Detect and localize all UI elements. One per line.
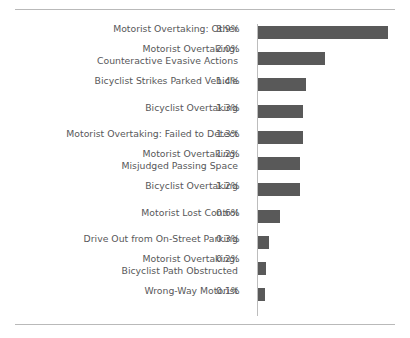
bar [258,105,303,118]
bar [258,131,303,144]
value-label: 1.3% [216,128,249,140]
value-label: 1.3% [216,102,249,114]
value-label: 0.1% [216,285,249,297]
category-label: Motorist Lost Control [20,207,238,219]
category-label: Motorist Overtaking: Bicyclist Path Obst… [20,253,238,276]
category-label: Motorist Overtaking: Misjudged Passing S… [20,148,238,171]
bar [258,262,266,275]
value-label: 0.6% [216,207,249,219]
category-label: Bicyclist Strikes Parked Vehicle [20,75,238,87]
category-label: Wrong-Way Motorist [20,285,238,297]
chart-container: Motorist Overtaking: Other3.9%Motorist O… [0,0,410,338]
bar [258,157,300,170]
bar-row: Wrong-Way Motorist0.1% [0,22,410,48]
category-label: Motorist Overtaking: Failed to Detect [20,128,238,140]
value-label: 1.2% [216,148,249,160]
category-label: Bicyclist Overtaking [20,180,238,192]
bar [258,52,325,65]
bar [258,236,269,249]
bar [258,288,265,301]
value-label: 1.4% [216,75,249,87]
category-label: Drive Out from On-Street Parking [20,233,238,245]
value-label: 0.3% [216,233,249,245]
bar [258,210,280,223]
plot-area: Motorist Overtaking: Other3.9%Motorist O… [0,22,410,318]
value-label: 1.2% [216,180,249,192]
bar [258,183,300,196]
bottom-horizontal-rule [15,324,395,325]
value-label: 0.2% [216,253,249,265]
top-horizontal-rule [15,9,395,10]
bar [258,78,306,91]
category-label: Bicyclist Overtaking [20,102,238,114]
